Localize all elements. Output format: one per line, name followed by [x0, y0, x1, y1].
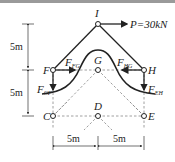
dim-horizontal-right: 5m	[113, 133, 126, 144]
label-I: I	[94, 7, 100, 19]
label-D: D	[93, 100, 102, 112]
force-FG-label: FFG	[64, 56, 80, 69]
dim-horizontal-left: 5m	[67, 133, 80, 144]
node-F	[51, 68, 56, 73]
node-G	[96, 68, 101, 73]
node-I	[96, 22, 101, 27]
label-H: H	[147, 64, 157, 76]
dim-vertical-top: 5m	[10, 41, 23, 52]
node-C	[51, 114, 56, 119]
truss-diagram: P=30kN FFG FHG FCF FEH I F G H C D E 5m …	[0, 0, 175, 162]
force-HG-label: FHG	[116, 56, 133, 69]
label-E: E	[147, 110, 155, 122]
label-G: G	[94, 54, 102, 66]
label-C: C	[43, 110, 51, 122]
load-label: P=30kN	[129, 18, 168, 30]
label-F: F	[42, 64, 50, 76]
node-E	[142, 114, 147, 119]
force-CF-label: FCF	[36, 83, 52, 96]
vertical-dimensions	[22, 24, 34, 116]
node-H	[142, 68, 147, 73]
force-EH-label: FEH	[147, 83, 163, 96]
dim-vertical-bottom: 5m	[10, 87, 23, 98]
node-D	[96, 114, 101, 119]
